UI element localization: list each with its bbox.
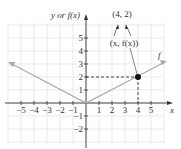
function-label: f [158,50,162,60]
chart-figure: y or f(x) (4, 2) (x, f(x)) f x −5−4−3−2−… [0,0,181,149]
svg-text:3: 3 [123,105,128,115]
tick-labels: −5−4−3−2−11234554321−1−2 [16,33,154,134]
svg-text:2: 2 [79,72,84,82]
highlight-point [135,74,141,80]
svg-text:−2: −2 [55,105,65,115]
x-axis-label: x [169,105,174,115]
annotation-pointer [130,48,137,74]
function-line [12,63,163,103]
svg-text:2: 2 [110,105,115,115]
svg-text:−2: −2 [73,124,83,134]
svg-text:4: 4 [136,105,141,115]
svg-text:3: 3 [79,59,84,69]
svg-text:1: 1 [97,105,102,115]
svg-text:−3: −3 [42,105,52,115]
svg-text:−5: −5 [16,105,26,115]
svg-text:5: 5 [79,33,84,43]
chart-svg: y or f(x) (4, 2) (x, f(x)) f x −5−4−3−2−… [0,0,181,149]
y-axis-arrow-icon [84,14,88,20]
annotation-label: (x, f(x)) [110,38,139,48]
left-arrow-icon [8,62,15,67]
svg-text:−1: −1 [73,111,83,121]
svg-text:5: 5 [149,105,154,115]
svg-text:1: 1 [79,85,84,95]
svg-text:−4: −4 [29,105,39,115]
svg-text:4: 4 [79,46,84,56]
point-label: (4, 2) [112,9,132,19]
y-axis-label: y or f(x) [50,10,80,20]
